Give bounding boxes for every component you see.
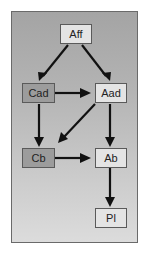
node-aad: Aad [95,83,127,103]
node-aff: Aff [60,24,92,44]
arrowhead-icon [105,137,115,147]
node-ab: Ab [95,148,127,168]
arrowhead-icon [105,197,115,207]
arrowhead-icon [102,72,111,81]
node-cad: Cad [22,83,55,103]
node-cb: Cb [22,148,55,168]
arrowhead-icon [34,137,44,147]
arrowhead-icon [80,88,91,98]
edge-aff-aad-arrow [82,45,106,76]
edge-aad-cb-arrow [64,104,95,137]
arrowhead-icon [38,72,47,81]
edge-aff-cad-arrow [43,45,68,76]
node-pl: Pl [95,208,127,228]
arrowhead-icon [80,153,91,163]
